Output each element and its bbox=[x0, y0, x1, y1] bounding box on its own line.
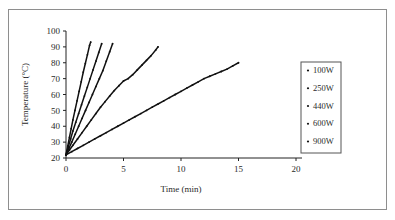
series-point bbox=[86, 54, 88, 56]
series-point bbox=[136, 69, 138, 71]
series-point bbox=[117, 125, 119, 127]
series-point bbox=[78, 113, 80, 115]
series-point bbox=[220, 71, 222, 73]
series-point bbox=[157, 103, 159, 105]
series-point bbox=[88, 102, 90, 104]
x-axis: 05101520 bbox=[64, 158, 302, 174]
series-point bbox=[67, 145, 69, 147]
series-point bbox=[118, 85, 120, 87]
series-point bbox=[197, 81, 199, 83]
series-point bbox=[111, 129, 113, 131]
series-point bbox=[157, 46, 159, 48]
y-axis-tick-label: 80 bbox=[51, 58, 61, 68]
series-point bbox=[69, 136, 71, 138]
series-point bbox=[92, 69, 94, 71]
series-point bbox=[113, 90, 115, 92]
x-axis-title: Time (min) bbox=[161, 184, 202, 194]
series-point bbox=[128, 119, 130, 121]
series-point bbox=[65, 154, 67, 156]
series-point bbox=[90, 119, 92, 121]
series-point bbox=[78, 125, 80, 127]
y-axis: 2030405060708090100 bbox=[47, 26, 67, 163]
series-point bbox=[72, 130, 74, 132]
series-point bbox=[127, 78, 129, 80]
y-axis-tick-label: 30 bbox=[51, 137, 61, 147]
x-axis-tick-label: 5 bbox=[121, 164, 126, 174]
series-point bbox=[72, 119, 74, 121]
legend-marker-icon bbox=[307, 105, 309, 107]
series-point bbox=[76, 100, 78, 102]
series-point bbox=[88, 141, 90, 143]
series-point bbox=[81, 117, 83, 119]
series-point bbox=[100, 106, 102, 108]
legend-marker-icon bbox=[307, 69, 309, 71]
series-line-100w bbox=[66, 63, 239, 155]
series-point bbox=[71, 141, 73, 143]
series-point bbox=[98, 52, 100, 54]
series-line-440w bbox=[66, 44, 113, 155]
legend-marker-icon bbox=[307, 140, 309, 142]
y-axis-title: Temperature (°C) bbox=[20, 63, 30, 126]
series-point bbox=[95, 60, 97, 62]
series-point bbox=[82, 71, 84, 73]
series-point bbox=[109, 51, 111, 53]
y-axis-tick-label: 60 bbox=[51, 90, 61, 100]
series-point bbox=[140, 113, 142, 115]
series-point bbox=[215, 73, 217, 75]
series-point bbox=[70, 128, 72, 130]
series-point bbox=[85, 109, 87, 111]
series-point bbox=[180, 90, 182, 92]
series-point bbox=[84, 63, 86, 65]
series-point bbox=[89, 78, 91, 80]
series-point bbox=[134, 116, 136, 118]
series-point bbox=[74, 133, 76, 135]
series-point bbox=[174, 94, 176, 96]
series-point bbox=[102, 70, 104, 72]
x-axis-tick-label: 0 bbox=[64, 164, 69, 174]
chart-plot-area: 2030405060708090100 05101520 Temperature… bbox=[0, 0, 395, 220]
series-point bbox=[112, 43, 114, 45]
series-point bbox=[81, 104, 83, 106]
series-point bbox=[77, 138, 79, 140]
data-series-group bbox=[65, 41, 239, 156]
series-point bbox=[146, 109, 148, 111]
series-point bbox=[155, 49, 157, 51]
series-point bbox=[163, 100, 165, 102]
series-point bbox=[92, 94, 94, 96]
series-point bbox=[169, 97, 171, 99]
y-axis-tick-label: 50 bbox=[51, 106, 61, 116]
series-point bbox=[95, 86, 97, 88]
legend-label-100w: 100W bbox=[313, 65, 334, 75]
series-point bbox=[146, 59, 148, 61]
series-point bbox=[101, 43, 103, 45]
series-point bbox=[232, 65, 234, 67]
x-axis-tick-label: 15 bbox=[234, 164, 244, 174]
series-point bbox=[150, 55, 152, 57]
series-point bbox=[105, 132, 107, 134]
series-point bbox=[141, 64, 143, 66]
legend-marker-icon bbox=[307, 87, 309, 89]
series-point bbox=[72, 144, 74, 146]
x-axis-tick-label: 20 bbox=[292, 164, 302, 174]
series-point bbox=[82, 144, 84, 146]
series-point bbox=[75, 121, 77, 123]
series-line-250w bbox=[66, 47, 158, 155]
series-point bbox=[89, 44, 91, 46]
series-point bbox=[98, 78, 100, 80]
series-point bbox=[80, 81, 82, 83]
series-point bbox=[84, 95, 86, 97]
chart-figure: 2030405060708090100 05101520 Temperature… bbox=[0, 0, 395, 220]
series-point bbox=[192, 84, 194, 86]
legend-label-250w: 250W bbox=[313, 83, 334, 93]
series-point bbox=[123, 80, 125, 82]
legend-label-600w: 600W bbox=[313, 118, 334, 128]
series-point bbox=[74, 109, 76, 111]
series-point bbox=[86, 125, 88, 127]
series-point bbox=[95, 113, 97, 115]
series-point bbox=[123, 122, 125, 124]
series-point bbox=[71, 151, 73, 153]
series-point bbox=[105, 60, 107, 62]
axis-labels-group: Temperature (°C)Time (min) bbox=[20, 63, 201, 194]
series-point bbox=[226, 68, 228, 70]
series-point bbox=[203, 78, 205, 80]
